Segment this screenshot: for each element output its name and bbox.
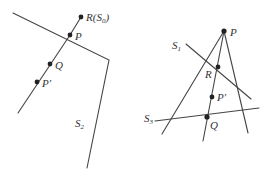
surface-s2-boundary: [13, 13, 109, 168]
ray-p-through-q-pprime: [18, 35, 70, 113]
left-diagram: R(S0) P Q P′ S2: [13, 11, 109, 168]
label-q: Q: [55, 59, 63, 71]
label-p: P: [74, 30, 82, 42]
label-s3: S3: [144, 112, 154, 126]
point-q: [48, 62, 53, 67]
ray-right: [224, 31, 248, 133]
label-s2: S2: [75, 117, 85, 131]
right-diagram: P R P′ Q S1 S3: [144, 26, 259, 141]
label-s1: S1: [172, 39, 181, 53]
point-p: [221, 28, 226, 33]
point-q: [204, 114, 209, 119]
label-p-prime: P′: [41, 77, 52, 89]
point-p-prime: [210, 95, 215, 100]
point-p: [68, 33, 73, 38]
point-p-prime: [35, 80, 40, 85]
label-p-prime: P′: [216, 91, 227, 103]
label-r: R: [204, 68, 212, 80]
point-r-s0: [79, 15, 84, 20]
point-r: [216, 65, 221, 70]
label-q: Q: [210, 119, 218, 131]
label-p: P: [229, 26, 237, 38]
diagram-canvas: R(S0) P Q P′ S2 P R P′ Q S1 S3: [0, 0, 270, 186]
label-r-s0: R(S0): [85, 11, 109, 25]
